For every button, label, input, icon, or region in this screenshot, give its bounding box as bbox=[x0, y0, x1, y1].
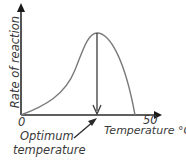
annotation-line-1: Optimum bbox=[20, 130, 74, 143]
annotation-line-2: temperature bbox=[13, 144, 86, 157]
x-origin-label: 0 bbox=[18, 116, 25, 129]
rate-curve bbox=[21, 33, 135, 115]
x-axis-label: Temperature °C bbox=[104, 124, 186, 137]
x-axis bbox=[21, 111, 162, 119]
enzyme-rate-diagram: Rate of reaction 0 50 Temperature °C Opt… bbox=[0, 0, 186, 162]
annotation-pointer-arrow bbox=[74, 118, 97, 138]
optimum-drop-arrow bbox=[93, 33, 101, 114]
y-axis-label: Rate of reaction bbox=[8, 7, 22, 117]
